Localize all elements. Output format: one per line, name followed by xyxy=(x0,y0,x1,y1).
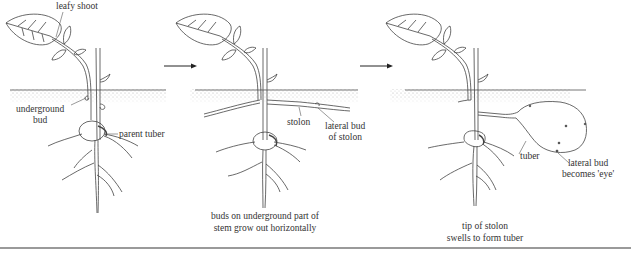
caption-stage-3-line2: swells to form tuber xyxy=(430,232,540,244)
stage-3-drawing xyxy=(386,14,587,206)
label-parent-tuber: parent tuber xyxy=(119,129,165,140)
label-stolon: stolon xyxy=(287,117,310,128)
label-underground-bud-line2: bud xyxy=(16,115,64,126)
caption-stage-2-line2: stem grow out horizontally xyxy=(200,222,330,234)
label-eye-line1: lateral bud xyxy=(562,158,614,169)
caption-stage-3: tip of stolon swells to form tuber xyxy=(430,220,540,244)
caption-stage-3-line1: tip of stolon xyxy=(430,220,540,232)
label-tuber: tuber xyxy=(520,151,540,162)
caption-stage-2: buds on underground part of stem grow ou… xyxy=(200,210,330,234)
label-underground-bud-line1: underground xyxy=(16,104,64,115)
label-lateral-bud-line2: of stolon xyxy=(325,132,365,143)
bottom-divider xyxy=(0,247,631,249)
label-underground-bud: underground bud xyxy=(16,104,64,126)
label-eye-line2: becomes 'eye' xyxy=(562,169,614,180)
label-leafy-shoot: leafy shoot xyxy=(56,1,98,12)
caption-stage-2-line1: buds on underground part of xyxy=(200,210,330,222)
stage-2-drawing xyxy=(176,14,358,208)
right-arrow-icon xyxy=(360,64,393,69)
label-eye: lateral bud becomes 'eye' xyxy=(562,158,614,180)
label-lateral-bud-line1: lateral bud xyxy=(325,121,365,132)
label-lateral-bud-of-stolon: lateral bud of stolon xyxy=(325,121,365,143)
right-arrow-icon xyxy=(164,64,197,69)
